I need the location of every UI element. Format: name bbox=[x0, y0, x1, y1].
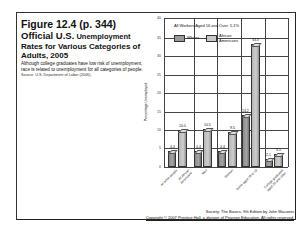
bar-whites-all bbox=[168, 151, 176, 167]
legend-title: All Workers Aged 16 and Over: 5.1% bbox=[174, 23, 239, 28]
bar-african-americans-teens bbox=[251, 44, 260, 167]
y-tick: 5 bbox=[151, 146, 161, 150]
gridline-v4 bbox=[265, 18, 266, 167]
value-label: 4.4 bbox=[220, 145, 225, 149]
y-tick: 10 bbox=[151, 128, 161, 132]
y-tick: 20 bbox=[151, 91, 161, 95]
value-label: 2.1 bbox=[266, 153, 271, 157]
y-tick: 25 bbox=[151, 73, 161, 77]
bar-whites-college bbox=[265, 159, 273, 167]
gridline-0 bbox=[164, 167, 288, 168]
bar-african-americans-college bbox=[274, 154, 283, 167]
y-tick: 40 bbox=[151, 16, 161, 20]
legend-label-african-americans: AfricanAmericans bbox=[219, 34, 238, 43]
legend-swatch-whites bbox=[174, 35, 185, 42]
value-label: 10.0 bbox=[179, 124, 186, 128]
value-label: 33.3 bbox=[252, 38, 259, 42]
legend-label-line2: Americans bbox=[219, 38, 238, 43]
value-label: 14.2 bbox=[242, 109, 249, 113]
bar-whites-men bbox=[194, 151, 202, 167]
gridline-15 bbox=[164, 112, 288, 113]
gridline-40 bbox=[164, 18, 288, 19]
gridline-v0 bbox=[164, 18, 165, 167]
bar-african-americans-women bbox=[228, 132, 237, 167]
bar-african-americans-all bbox=[178, 130, 187, 167]
value-label: 3.5 bbox=[276, 148, 281, 152]
chart-plot: 40 35 30 25 20 15 10 5 0 All Workers Age… bbox=[0, 0, 302, 233]
copyright-notice: Copyright © 2007 Prentice Hall, a divisi… bbox=[146, 215, 294, 221]
bar-african-americans-men bbox=[203, 129, 212, 167]
y-tick: 30 bbox=[151, 54, 161, 58]
bar-whites-women bbox=[218, 151, 226, 167]
y-tick: 35 bbox=[151, 36, 161, 40]
bar-whites-teens bbox=[242, 115, 250, 167]
gridline-25 bbox=[164, 75, 288, 76]
y-tick: 0 bbox=[151, 165, 161, 169]
value-label: 4.4 bbox=[170, 145, 175, 149]
gridline-v5 bbox=[288, 18, 289, 167]
gridline-20 bbox=[164, 93, 288, 94]
legend-swatch-african-americans bbox=[206, 35, 217, 42]
gridline-30 bbox=[164, 56, 288, 57]
value-label: 4.4 bbox=[196, 145, 201, 149]
x-label: Men bbox=[199, 169, 209, 179]
x-label: Women bbox=[222, 169, 234, 181]
book-citation: Society: The Basics, 9th Edition by John… bbox=[206, 209, 294, 214]
y-tick: 15 bbox=[151, 110, 161, 114]
value-label: 10.5 bbox=[204, 123, 211, 127]
gridline-v2 bbox=[217, 18, 218, 167]
value-label: 9.5 bbox=[230, 126, 235, 130]
x-label: Teens aged 16 to 19 bbox=[235, 169, 259, 193]
x-label: College graduatesaged 25 and older bbox=[264, 169, 287, 192]
legend-label-whites: Whites bbox=[187, 36, 199, 41]
